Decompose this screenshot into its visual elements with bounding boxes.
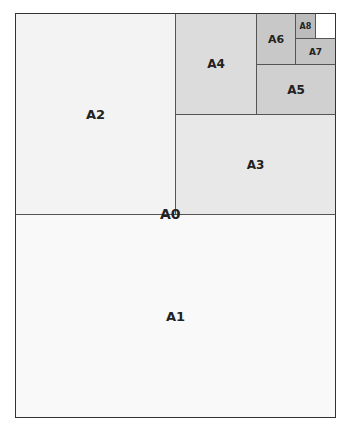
sheet-a6: A6 (256, 13, 296, 65)
sheet-a1: A1 (15, 214, 336, 418)
label-a4: A4 (207, 57, 225, 71)
label-a3: A3 (247, 158, 265, 172)
label-a2: A2 (86, 107, 105, 122)
sheet-a3: A3 (175, 114, 336, 215)
sheet-a7: A7 (295, 38, 336, 65)
remaining-area (315, 13, 336, 39)
sheet-a5: A5 (256, 64, 336, 115)
label-a8: A8 (300, 22, 312, 31)
label-a1: A1 (166, 309, 185, 324)
label-a7: A7 (309, 47, 322, 57)
label-a6: A6 (268, 33, 284, 46)
sheet-a2: A2 (15, 13, 176, 215)
sheet-a4: A4 (175, 13, 257, 115)
label-a0: A0 (160, 206, 181, 222)
label-a5: A5 (287, 83, 305, 97)
sheet-a8: A8 (295, 13, 316, 39)
